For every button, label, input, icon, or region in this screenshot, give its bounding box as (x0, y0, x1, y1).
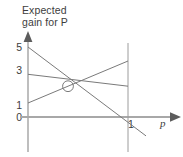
plot-drawing-area (0, 0, 183, 157)
x-axis-arrow-icon (170, 112, 181, 122)
expected-gain-chart-figure: Expected gain for P 5 3 1 0 1 p (0, 0, 183, 157)
y-axis-arrow-icon (24, 31, 33, 42)
series-line-increasing (28, 61, 128, 103)
x-axis-group (20, 112, 181, 122)
